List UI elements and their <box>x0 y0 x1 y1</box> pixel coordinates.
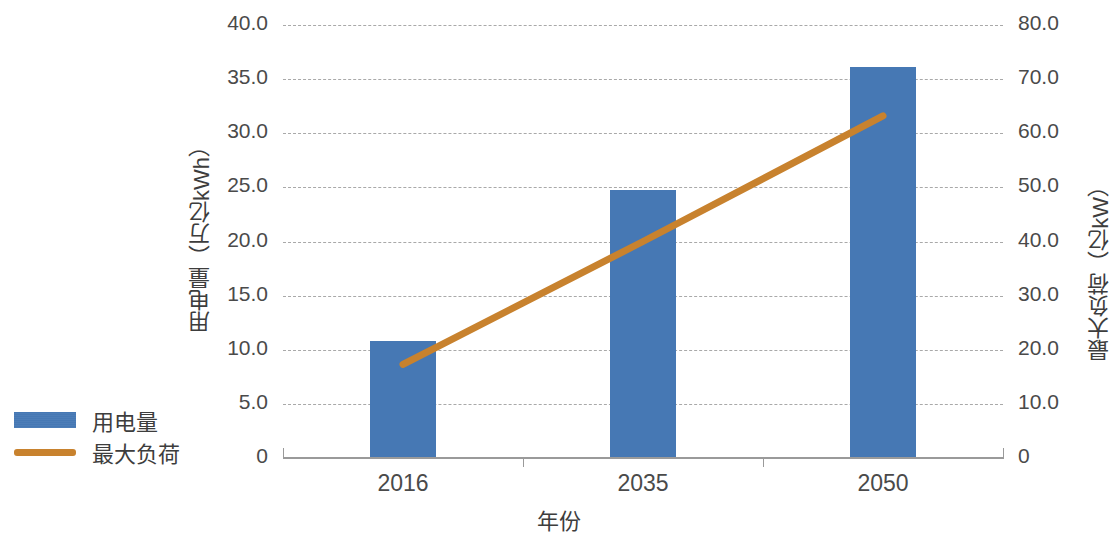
chart-container: 05.010.015.020.025.030.035.040.0 010.020… <box>0 0 1118 533</box>
x-axis-tick-label: 2050 <box>813 470 953 497</box>
legend-label-line: 最大负荷 <box>92 436 180 468</box>
left-axis-end-cap <box>283 448 284 458</box>
left-axis-title: 用电量（万亿kWh） <box>186 135 218 333</box>
plot-area <box>283 25 1003 458</box>
right-axis-tick-label: 80.0 <box>1018 11 1059 35</box>
right-axis-tick-label: 40.0 <box>1018 228 1059 252</box>
line-path[interactable] <box>403 116 883 365</box>
left-axis-tick-label: 10.0 <box>150 336 268 360</box>
x-axis-tick-label: 2035 <box>573 470 713 497</box>
legend-line-swatch-icon <box>14 449 76 456</box>
right-axis-tick-label: 0 <box>1018 444 1030 468</box>
left-axis-tick-label: 35.0 <box>150 65 268 89</box>
right-axis-tick-label: 70.0 <box>1018 65 1059 89</box>
left-axis-tick-label: 40.0 <box>150 11 268 35</box>
legend-item-line[interactable]: 最大负荷 <box>14 436 194 468</box>
x-axis-tick-mark <box>763 458 764 467</box>
legend-bar-swatch-icon <box>14 412 76 428</box>
x-axis-tick-mark <box>523 458 524 467</box>
chart-legend: 用电量 最大负荷 <box>14 404 194 468</box>
legend-item-bar[interactable]: 用电量 <box>14 404 194 436</box>
right-axis-tick-label: 10.0 <box>1018 390 1059 414</box>
right-axis-tick-label: 20.0 <box>1018 336 1059 360</box>
legend-label-bar: 用电量 <box>92 404 158 436</box>
right-axis-tick-label: 50.0 <box>1018 173 1059 197</box>
x-axis-title: 年份 <box>0 503 1118 533</box>
x-axis-tick-label: 2016 <box>333 470 473 497</box>
x-axis-baseline <box>283 457 1004 459</box>
right-axis-end-cap <box>1003 448 1004 458</box>
right-axis-title: 最大负荷（亿kW） <box>1085 175 1117 361</box>
right-axis-tick-label: 30.0 <box>1018 282 1059 306</box>
line-series-group <box>283 25 1003 458</box>
right-axis-tick-label: 60.0 <box>1018 119 1059 143</box>
